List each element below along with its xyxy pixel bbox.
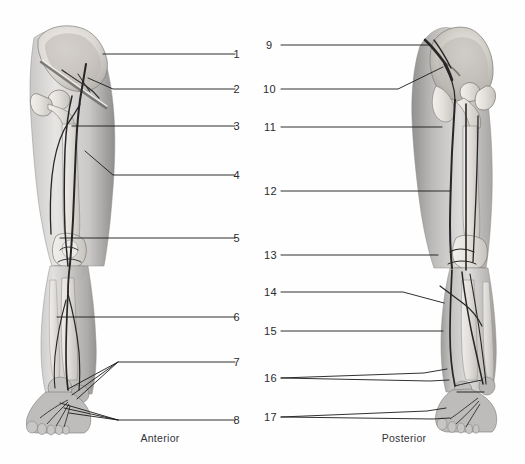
callout-number-7[interactable]: 7 [214, 357, 240, 368]
callout-number-6[interactable]: 6 [214, 312, 240, 323]
callout-number-1[interactable]: 1 [214, 49, 240, 60]
callout-number-11[interactable]: 11 [264, 122, 276, 133]
callout-number-10[interactable]: 10 [263, 84, 276, 95]
leader-line-17a [281, 408, 446, 417]
leader-line-14 [281, 292, 444, 303]
callout-number-3[interactable]: 3 [214, 121, 240, 132]
callout-number-15[interactable]: 15 [264, 326, 277, 337]
callout-number-16[interactable]: 16 [264, 373, 277, 384]
leader-line-16a [281, 369, 447, 378]
callout-number-2[interactable]: 2 [214, 84, 240, 95]
leader-line-17b [281, 417, 450, 419]
leader-line-16b [281, 378, 449, 381]
view-caption-anterior: Anterior [140, 432, 179, 444]
callout-number-12[interactable]: 12 [264, 186, 277, 197]
callout-number-14[interactable]: 14 [264, 287, 277, 298]
callout-number-5[interactable]: 5 [214, 233, 240, 244]
callout-number-4[interactable]: 4 [214, 170, 240, 181]
callout-number-8[interactable]: 8 [214, 415, 240, 426]
anatomy-figure-svg [0, 0, 525, 464]
callout-number-13[interactable]: 13 [264, 250, 277, 261]
posterior-femoral-condyles [452, 235, 487, 270]
callout-number-9[interactable]: 9 [266, 40, 273, 51]
view-caption-posterior: Posterior [382, 432, 427, 444]
callout-number-17[interactable]: 17 [264, 412, 277, 423]
anatomy-figure-root: 1 2 3 4 5 6 7 8 9 10 11 12 13 14 15 16 1… [0, 0, 525, 464]
